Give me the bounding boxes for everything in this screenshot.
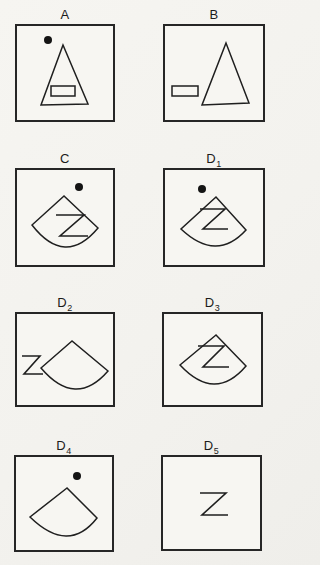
fan-shape <box>180 335 246 384</box>
dot-icon <box>44 36 52 44</box>
fan-shape <box>30 488 97 536</box>
panel-b-label: B <box>165 5 263 24</box>
panel-d3-label: D3 <box>164 293 261 312</box>
panel-d1-drawing <box>165 170 263 265</box>
letter-z-glyph <box>56 215 88 236</box>
letter-z-glyph <box>200 493 228 515</box>
letter-z-glyph <box>22 356 43 374</box>
panel-d2: D2 <box>15 312 115 407</box>
panel-b: B <box>163 24 265 122</box>
panel-d2-label: D2 <box>17 293 113 312</box>
panel-a-drawing <box>17 26 113 120</box>
dot-icon <box>75 183 83 191</box>
panel-d1: D1 <box>163 168 265 267</box>
panel-d5: D5 <box>161 455 262 551</box>
panel-c-label: C <box>17 149 113 168</box>
fan-shape <box>181 197 246 246</box>
panel-d5-drawing <box>163 457 260 549</box>
dot-icon <box>73 472 81 480</box>
panel-a-label: A <box>17 5 113 24</box>
letter-z-glyph <box>200 209 228 229</box>
triangle-shape <box>202 43 249 105</box>
panel-a: A <box>15 24 115 122</box>
panel-d4: D4 <box>14 455 114 552</box>
dot-icon <box>198 185 206 193</box>
fan-shape <box>41 341 108 389</box>
panel-d5-label: D5 <box>163 436 260 455</box>
panel-d2-drawing <box>17 314 113 405</box>
panel-b-drawing <box>165 26 263 120</box>
panel-d4-drawing <box>16 457 112 550</box>
scanned-figure-page: { "figure": { "description": "Eight labe… <box>0 0 276 565</box>
panel-d1-label: D1 <box>165 149 263 168</box>
panel-d3: D3 <box>162 312 263 407</box>
panel-d4-label: D4 <box>16 436 112 455</box>
panel-d3-drawing <box>164 314 261 405</box>
rectangle-shape <box>172 86 198 96</box>
letter-z-glyph <box>198 346 229 367</box>
fan-shape <box>32 196 98 247</box>
panel-c-drawing <box>17 170 113 265</box>
panel-c: C <box>15 168 115 267</box>
rectangle-shape <box>51 86 75 96</box>
